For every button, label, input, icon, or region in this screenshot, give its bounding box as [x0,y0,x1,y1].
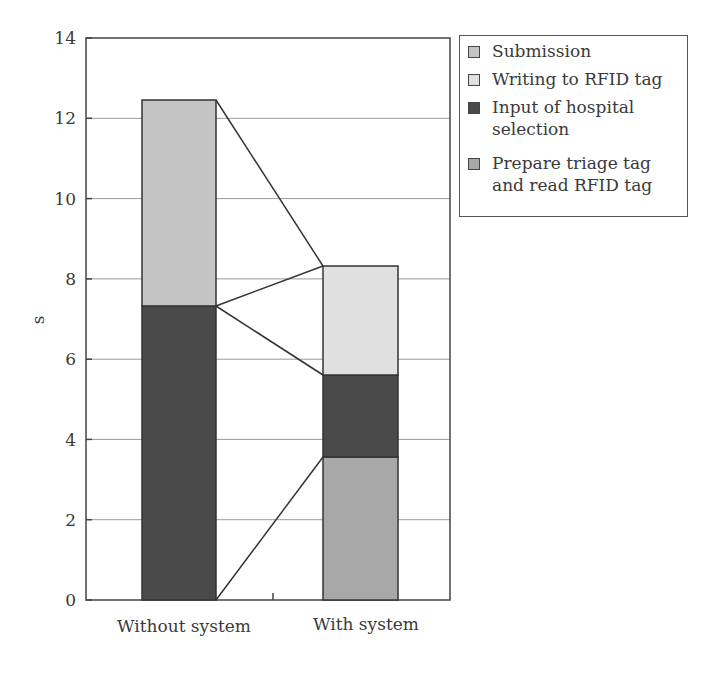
legend-label: Submission [492,40,682,62]
y-tick-0: 0 [65,590,76,610]
bar-without-system [142,100,216,600]
y-tick-14: 14 [54,28,76,48]
segment-input-hospital-selection [142,306,216,600]
segment-input-hospital-selection [323,375,398,457]
y-tick-2: 2 [65,510,76,530]
y-tick-labels: 0 2 4 6 8 10 12 14 [54,28,76,610]
y-tick-12: 12 [54,108,76,128]
legend-swatch-icon [468,46,480,58]
legend-swatch-icon [468,158,480,170]
y-tick-10: 10 [54,189,76,209]
legend-item-input-hospital-selection: Input of hospital selection [460,96,642,140]
y-axis-label: s [28,316,48,325]
segment-writing-rfid-tag [323,266,398,375]
x-category-with-system: With system [313,614,419,634]
y-tick-4: 4 [65,430,76,450]
y-tick-6: 6 [65,349,76,369]
connector-lines [216,100,323,600]
legend-item-writing-rfid-tag: Writing to RFID tag [460,68,682,90]
legend-label: Prepare triage tag and read RFID tag [492,152,687,196]
legend-item-submission: Submission [460,40,682,62]
bar-with-system [323,266,398,600]
segment-submission [142,100,216,306]
segment-prepare-triage-tag [323,457,398,600]
legend-item-prepare-triage-tag: Prepare triage tag and read RFID tag [460,152,687,196]
y-tick-8: 8 [65,269,76,289]
legend: Submission Writing to RFID tag Input of … [459,35,688,217]
x-category-without-system: Without system [117,616,251,636]
legend-swatch-icon [468,102,480,114]
legend-swatch-icon [468,74,480,86]
legend-label: Input of hospital selection [492,96,642,140]
legend-label: Writing to RFID tag [492,68,682,90]
